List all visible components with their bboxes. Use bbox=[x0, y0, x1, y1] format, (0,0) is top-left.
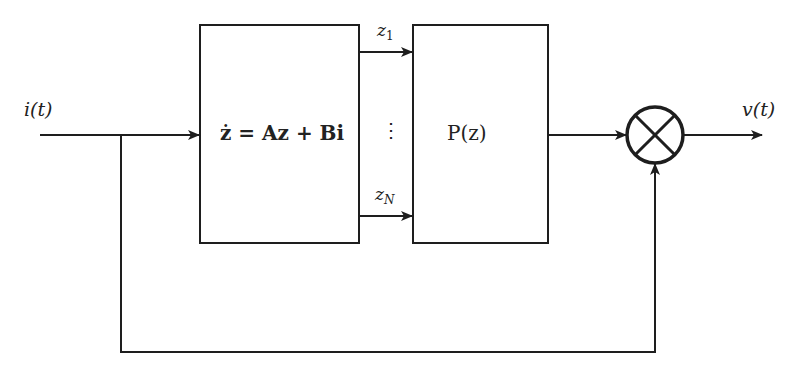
nonlinear-function: P(z) bbox=[447, 121, 487, 145]
z1-label: z1 bbox=[377, 20, 394, 43]
input-label: i(t) bbox=[24, 98, 53, 120]
multiply-junction-icon bbox=[627, 107, 683, 163]
ellipsis: ⋮ bbox=[381, 118, 401, 142]
output-label: v(t) bbox=[742, 98, 775, 120]
diagram-lines bbox=[0, 0, 797, 376]
block-diagram: i(t) v(t) ż = Az + Bi P(z) z1 zN ⋮ bbox=[0, 0, 797, 376]
state-space-equation: ż = Az + Bi bbox=[220, 121, 344, 145]
zN-label: zN bbox=[375, 184, 394, 207]
